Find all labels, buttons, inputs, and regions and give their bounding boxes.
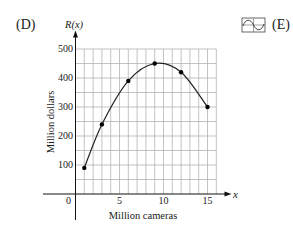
data-point-marker xyxy=(126,79,130,83)
panel-label: (D) xyxy=(16,17,36,33)
y-axis-arrow-icon xyxy=(73,31,78,38)
x-tick-labels: 051015 xyxy=(66,195,213,206)
data-point-marker xyxy=(82,166,86,170)
y-tick-label: 300 xyxy=(58,101,73,112)
x-axis-variable-label: x xyxy=(232,188,238,200)
y-axis-title: Million dollars xyxy=(45,91,56,154)
x-axis-title: Million cameras xyxy=(109,210,178,221)
x-tick-label: 15 xyxy=(203,195,213,206)
x-tick-label: 0 xyxy=(66,195,71,206)
graphing-calculator-icon xyxy=(242,18,265,32)
y-tick-label: 200 xyxy=(58,130,73,141)
data-point-marker xyxy=(100,122,104,126)
data-point-marker xyxy=(153,61,157,65)
x-axis-arrow-icon xyxy=(225,192,232,197)
revenue-chart-figure: (D) (E) R(x) x Million dollars Million c… xyxy=(0,0,293,236)
x-tick-label: 5 xyxy=(117,195,122,206)
y-tick-label: 400 xyxy=(58,72,73,83)
y-tick-labels: 100200300400500 xyxy=(58,43,73,170)
y-tick-label: 100 xyxy=(58,159,73,170)
option-label: (E) xyxy=(272,17,290,33)
data-point-marker xyxy=(205,105,209,109)
y-tick-label: 500 xyxy=(58,43,73,54)
y-axis xyxy=(73,31,78,221)
data-point-marker xyxy=(179,70,183,74)
x-tick-label: 10 xyxy=(159,195,169,206)
chart-grid xyxy=(76,49,217,194)
y-axis-function-label: R(x) xyxy=(64,19,84,31)
